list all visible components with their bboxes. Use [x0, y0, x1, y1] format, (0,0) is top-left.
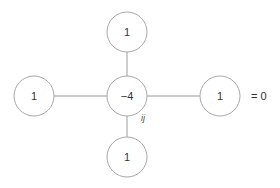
laplacian-stencil-diagram: 1 −4 1 1 1 ij = 0 — [0, 0, 280, 188]
node-bottom-label: 1 — [124, 151, 130, 163]
node-left: 1 — [14, 76, 54, 116]
node-top: 1 — [107, 12, 147, 52]
node-right-label: 1 — [217, 90, 223, 102]
node-bottom: 1 — [107, 137, 147, 177]
node-left-label: 1 — [31, 90, 37, 102]
node-center-label: −4 — [121, 90, 134, 102]
index-label: ij — [141, 113, 146, 123]
equation-suffix: = 0 — [251, 90, 267, 102]
node-center: −4 — [107, 76, 147, 116]
node-top-label: 1 — [124, 26, 130, 38]
node-right: 1 — [200, 76, 240, 116]
